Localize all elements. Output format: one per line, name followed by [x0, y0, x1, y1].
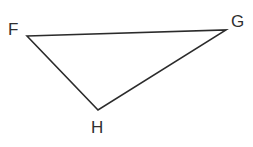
triangle-drawing — [0, 0, 253, 147]
triangle-figure: F G H — [0, 0, 253, 147]
vertex-label-g: G — [231, 13, 244, 30]
triangle-fgh-shape — [27, 30, 226, 110]
vertex-label-h: H — [91, 119, 103, 136]
vertex-label-f: F — [8, 21, 18, 38]
